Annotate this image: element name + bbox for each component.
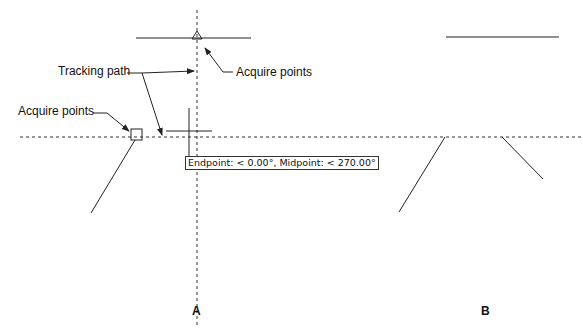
panel-b-geometry xyxy=(399,37,559,212)
acquire-top-leader xyxy=(205,48,233,72)
tracking-tooltip: Endpoint: < 0.00°, Midpoint: < 270.00° xyxy=(185,156,379,170)
endpoint-square-icon xyxy=(131,129,142,140)
tracking-path-leader-2 xyxy=(142,73,162,135)
tracking-path-leader-1 xyxy=(127,71,194,73)
diagonal-line-a xyxy=(91,140,135,213)
diagonal-right-b xyxy=(502,137,543,179)
tracking-path-label: Tracking path xyxy=(58,64,130,78)
panel-label-b: B xyxy=(481,304,490,318)
acquire-points-left-label: Acquire points xyxy=(18,104,94,118)
panel-label-a: A xyxy=(192,304,201,318)
acquire-left-leader xyxy=(93,113,129,131)
diagonal-left-b xyxy=(399,137,445,212)
acquire-points-top-label: Acquire points xyxy=(236,65,312,79)
